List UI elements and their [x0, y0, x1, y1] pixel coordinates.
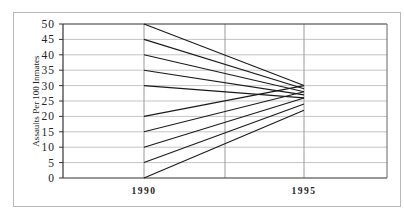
- x-tick-label: 1995: [292, 186, 317, 196]
- series-line: [144, 98, 304, 147]
- series-line: [144, 104, 304, 163]
- series-line: [144, 39, 304, 88]
- y-tick-label: 5: [48, 157, 55, 169]
- y-tick-label: 30: [42, 80, 56, 92]
- y-tick-label: 50: [42, 18, 56, 30]
- series-line: [144, 55, 304, 92]
- y-axis-label: Assaults Per 100 Inmates: [31, 55, 41, 147]
- series-line: [144, 86, 304, 98]
- y-tick-label: 20: [42, 110, 56, 122]
- line-chart: 05101520253035404550 19901995 Assaults P…: [0, 0, 404, 217]
- y-axis-ticks: 05101520253035404550: [42, 18, 64, 184]
- y-tick-label: 35: [42, 64, 56, 76]
- y-tick-label: 25: [42, 95, 56, 107]
- x-tick-label: 1990: [132, 186, 157, 196]
- x-axis-ticks: 19901995: [132, 186, 317, 196]
- series-line: [144, 110, 304, 178]
- y-tick-label: 45: [42, 33, 56, 45]
- y-tick-label: 40: [42, 49, 56, 61]
- y-tick-label: 15: [42, 126, 56, 138]
- y-tick-label: 10: [42, 141, 56, 153]
- y-tick-label: 0: [48, 172, 55, 184]
- series-line: [144, 70, 304, 95]
